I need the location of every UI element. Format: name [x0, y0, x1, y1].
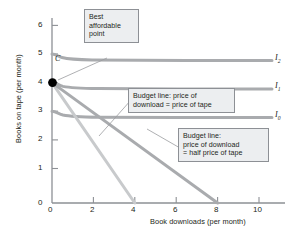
y-axis-title: Books on tape (per month)	[14, 39, 23, 159]
figure-container: 6 5 4 3 2 1 0 0 2 4 6 8 10 Book download…	[0, 0, 291, 235]
y-tick-label-3: 3	[38, 105, 42, 114]
chart-canvas	[0, 0, 291, 235]
budget-line-equal-price	[52, 83, 135, 203]
leader-line-budget-half	[147, 129, 180, 148]
x-tick-label-8: 8	[214, 205, 218, 214]
best-affordable-point-marker	[48, 78, 57, 87]
y-tick-label-4: 4	[38, 77, 42, 86]
y-tick-label-0: 0	[38, 198, 42, 207]
x-tick-label-6: 6	[173, 205, 177, 214]
curve-label-i1-sub: 1	[278, 86, 281, 92]
y-axis-ticks	[52, 25, 58, 168]
point-c-label: C	[55, 54, 60, 63]
x-axis-title: Book downloads (per month)	[150, 217, 246, 226]
y-tick-label-1: 1	[38, 163, 42, 172]
callout-budget-line-half: Budget line: price of download = half pr…	[178, 128, 269, 162]
callout-budget-line-equal: Budget line: price of download = price o…	[128, 88, 235, 113]
y-tick-label-6: 6	[38, 20, 42, 29]
curve-label-i2: I2	[275, 53, 281, 64]
curve-label-i1: I1	[275, 81, 281, 92]
leader-line-best-point	[58, 58, 107, 80]
x-tick-label-0: 0	[48, 205, 52, 214]
curve-label-i2-sub: 2	[278, 58, 281, 64]
y-tick-label-5: 5	[38, 48, 42, 57]
indifference-curve-i2	[52, 54, 272, 61]
x-tick-label-10: 10	[253, 205, 262, 214]
callout-best-affordable-point: Best affordable point	[84, 9, 139, 43]
curve-label-i0-sub: 0	[278, 115, 281, 121]
x-tick-label-4: 4	[131, 205, 135, 214]
x-tick-label-2: 2	[90, 205, 94, 214]
x-axis-ticks	[93, 197, 259, 203]
curve-label-i0: I0	[275, 110, 281, 121]
y-tick-label-2: 2	[38, 134, 42, 143]
